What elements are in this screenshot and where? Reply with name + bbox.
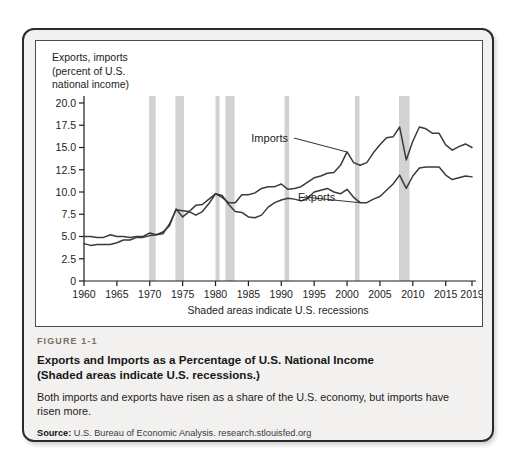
data-series-group (84, 127, 472, 245)
recession-band (175, 96, 184, 281)
x-tick-label: 2019 (460, 288, 482, 300)
x-tick-label: 1960 (72, 288, 96, 300)
x-axis-caption: Shaded areas indicate U.S. recessions (188, 304, 369, 316)
x-tick-label: 2010 (401, 288, 425, 300)
y-tick-label: 0 (70, 275, 76, 287)
figure-title-line2: (Shaded areas indicate U.S. recessions.) (37, 368, 260, 381)
y-tick-label: 7.5 (61, 208, 76, 220)
y-axis-ticks: 02.55.07.510.012.515.017.520.0 (56, 97, 84, 287)
figure-title-line1: Exports and Imports as a Percentage of U… (37, 353, 374, 366)
recession-band (225, 96, 234, 281)
x-tick-label: 2005 (368, 288, 392, 300)
x-tick-label: 1965 (105, 288, 129, 300)
axis-group (84, 96, 476, 281)
y-tick-label: 10.0 (56, 186, 77, 198)
x-axis-ticks: 1960196519701975198019851990199520002005… (72, 281, 482, 300)
x-tick-label: 1995 (302, 288, 326, 300)
recession-band (399, 96, 410, 281)
x-tick-label: 1990 (270, 288, 294, 300)
x-tick-label: 2000 (335, 288, 359, 300)
exports-series-label: Exports (298, 191, 336, 203)
x-tick-label: 1980 (204, 288, 228, 300)
series-line-imports (84, 127, 472, 245)
source-text: U.S. Bureau of Economic Analysis. resear… (74, 428, 311, 438)
x-tick-label: 1985 (237, 288, 261, 300)
y-tick-label: 20.0 (56, 97, 77, 109)
x-tick-label: 2015 (434, 288, 458, 300)
figure-description: Both imports and exports have risen as a… (37, 390, 467, 418)
y-tick-label: 12.5 (56, 164, 77, 176)
exports-imports-line-chart: 02.55.07.510.012.515.017.520.0 196019651… (36, 41, 482, 326)
x-tick-label: 1975 (171, 288, 195, 300)
chart-panel: Exports, imports (percent of U.S. nation… (35, 40, 483, 327)
series-line-exports (84, 167, 472, 237)
recession-band (216, 96, 220, 281)
y-tick-label: 15.0 (56, 141, 77, 153)
figure-number: FIGURE 1-1 (37, 336, 483, 346)
y-tick-label: 2.5 (61, 253, 76, 265)
figure-card: Exports, imports (percent of U.S. nation… (22, 28, 494, 442)
y-tick-label: 17.5 (56, 119, 77, 131)
imports-series-leader-line (294, 138, 347, 152)
figure-source: Source: U.S. Bureau of Economic Analysis… (37, 428, 483, 438)
figure-caption-area: FIGURE 1-1 Exports and Imports as a Perc… (35, 336, 483, 438)
imports-series-label: Imports (251, 132, 288, 144)
recession-band (149, 96, 156, 281)
figure-title: Exports and Imports as a Percentage of U… (37, 353, 483, 382)
recession-bands-group (149, 96, 409, 281)
y-tick-label: 5.0 (61, 230, 76, 242)
x-tick-label: 1970 (138, 288, 162, 300)
source-label: Source: (37, 428, 71, 438)
recession-band (355, 96, 360, 281)
